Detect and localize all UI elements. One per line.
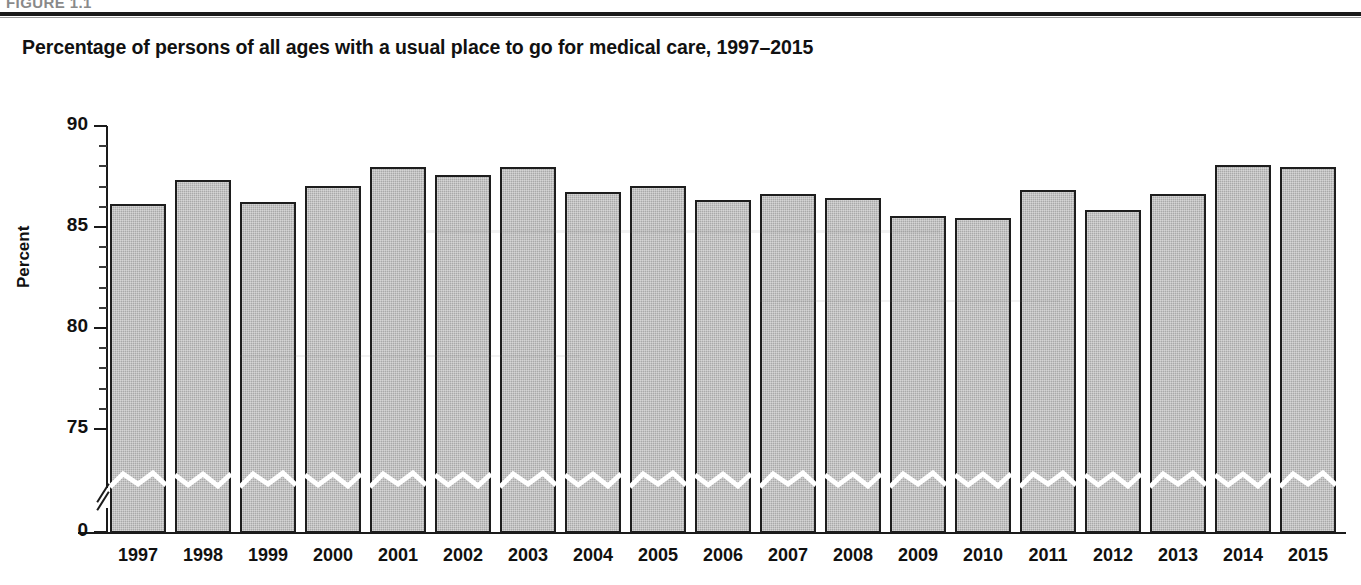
bar-2002[interactable] <box>435 175 491 533</box>
bar-slot <box>1085 120 1141 533</box>
bar-axis-break-zigzag <box>1215 469 1271 491</box>
x-tick-label-2010: 2010 <box>955 545 1011 566</box>
chart-title: Percentage of persons of all ages with a… <box>22 36 813 59</box>
bar-2011[interactable] <box>1020 190 1076 533</box>
y-minor-tick <box>99 206 107 208</box>
bar-axis-break-zigzag <box>1280 469 1336 491</box>
bar-2007[interactable] <box>760 194 816 533</box>
y-minor-tick <box>99 287 107 289</box>
bar-2015[interactable] <box>1280 167 1336 533</box>
y-tick-75 <box>94 428 107 430</box>
bar-2010[interactable] <box>955 218 1011 533</box>
bar-slot <box>370 120 426 533</box>
bar-axis-break-zigzag <box>1150 469 1206 491</box>
y-minor-tick <box>99 186 107 188</box>
x-tick-label-2013: 2013 <box>1150 545 1206 566</box>
y-tick-label-text: 85 <box>48 214 88 236</box>
x-tick-label-2003: 2003 <box>500 545 556 566</box>
y-minor-tick <box>99 347 107 349</box>
y-minor-tick <box>99 266 107 268</box>
bar-axis-break-zigzag <box>435 469 491 491</box>
bar-2013[interactable] <box>1150 194 1206 533</box>
bar-axis-break-zigzag <box>110 469 166 491</box>
bar-axis-break-zigzag <box>370 469 426 491</box>
bar-axis-break-zigzag <box>175 469 231 491</box>
bar-2003[interactable] <box>500 167 556 533</box>
x-tick-label-2008: 2008 <box>825 545 881 566</box>
bar-2012[interactable] <box>1085 210 1141 533</box>
y-tick-label-text: 0 <box>48 519 88 541</box>
bar-series <box>110 120 1346 533</box>
y-tick-80 <box>94 327 107 329</box>
bar-1997[interactable] <box>110 204 166 533</box>
x-tick-label-1999: 1999 <box>240 545 296 566</box>
bar-1998[interactable] <box>175 180 231 533</box>
y-tick-85 <box>94 226 107 228</box>
x-tick-label-2015: 2015 <box>1280 545 1336 566</box>
y-minor-tick <box>99 246 107 248</box>
y-tick-90 <box>94 125 107 127</box>
bar-1999[interactable] <box>240 202 296 533</box>
bar-slot <box>890 120 946 533</box>
bar-2014[interactable] <box>1215 165 1271 533</box>
x-tick-label-2012: 2012 <box>1085 545 1141 566</box>
x-tick-label-2002: 2002 <box>435 545 491 566</box>
x-tick-label-1998: 1998 <box>175 545 231 566</box>
bar-2004[interactable] <box>565 192 621 533</box>
bar-slot <box>500 120 556 533</box>
bar-axis-break-zigzag <box>630 469 686 491</box>
bar-axis-break-zigzag <box>695 469 751 491</box>
y-minor-tick <box>99 408 107 410</box>
bar-axis-break-zigzag <box>890 469 946 491</box>
bar-slot <box>1020 120 1076 533</box>
y-tick-0 <box>94 531 107 533</box>
x-tick-label-2006: 2006 <box>695 545 751 566</box>
bar-2006[interactable] <box>695 200 751 533</box>
bar-axis-break-zigzag <box>500 469 556 491</box>
bar-slot <box>1215 120 1271 533</box>
y-minor-tick <box>99 307 107 309</box>
bar-axis-break-zigzag <box>305 469 361 491</box>
bar-slot <box>565 120 621 533</box>
bar-slot <box>305 120 361 533</box>
bar-2005[interactable] <box>630 186 686 533</box>
x-tick-label-2007: 2007 <box>760 545 816 566</box>
x-tick-label-2011: 2011 <box>1020 545 1076 566</box>
x-tick-label-2005: 2005 <box>630 545 686 566</box>
figure-page: FIGURE 1.1 Percentage of persons of all … <box>0 0 1361 585</box>
x-tick-label-2004: 2004 <box>565 545 621 566</box>
x-tick-label-2014: 2014 <box>1215 545 1271 566</box>
bar-axis-break-zigzag <box>240 469 296 491</box>
x-tick-label-2000: 2000 <box>305 545 361 566</box>
bar-slot <box>1150 120 1206 533</box>
bar-slot <box>1280 120 1336 533</box>
y-minor-tick <box>99 367 107 369</box>
bar-slot <box>240 120 296 533</box>
bar-2000[interactable] <box>305 186 361 533</box>
bar-slot <box>955 120 1011 533</box>
bar-axis-break-zigzag <box>565 469 621 491</box>
header-rule-thin <box>0 17 1361 18</box>
bar-axis-break-zigzag <box>760 469 816 491</box>
bar-2009[interactable] <box>890 216 946 533</box>
bar-axis-break-zigzag <box>1085 469 1141 491</box>
y-tick-label-text: 80 <box>48 315 88 337</box>
y-minor-tick <box>99 165 107 167</box>
x-tick-label-2009: 2009 <box>890 545 946 566</box>
bar-slot <box>630 120 686 533</box>
bar-slot <box>695 120 751 533</box>
x-tick-label-1997: 1997 <box>110 545 166 566</box>
bar-slot <box>825 120 881 533</box>
bar-2008[interactable] <box>825 198 881 533</box>
bar-axis-break-zigzag <box>955 469 1011 491</box>
bar-slot <box>110 120 166 533</box>
y-tick-label-text: 90 <box>48 113 88 135</box>
bar-slot <box>175 120 231 533</box>
x-axis-tick-labels: 1997199819992000200120022003200420052006… <box>110 545 1346 575</box>
y-minor-tick <box>99 388 107 390</box>
header-rule <box>0 12 1361 16</box>
bar-axis-break-zigzag <box>1020 469 1076 491</box>
y-minor-tick <box>99 145 107 147</box>
bar-2001[interactable] <box>370 167 426 533</box>
figure-number: FIGURE 1.1 <box>6 0 92 11</box>
